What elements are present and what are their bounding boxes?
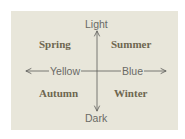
quadrant-label-winter: Winter (114, 88, 147, 99)
axis-label-yellow: Yellow (49, 66, 81, 77)
axis-label-light: Light (84, 19, 109, 30)
axis-label-dark: Dark (84, 113, 108, 124)
quadrant-label-autumn: Autumn (39, 88, 78, 99)
quadrant-label-spring: Spring (39, 39, 71, 50)
axis-label-blue: Blue (121, 66, 144, 77)
quadrant-label-summer: Summer (111, 39, 151, 50)
